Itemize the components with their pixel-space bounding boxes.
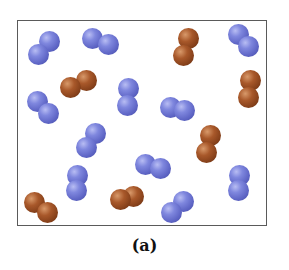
figure-caption: (a) — [0, 236, 289, 255]
brown-atom-sphere — [110, 189, 131, 210]
blue-atom-sphere — [150, 158, 171, 179]
figure: (a) — [0, 0, 289, 270]
blue-atom-sphere — [174, 100, 195, 121]
brown-atom-sphere — [60, 77, 81, 98]
blue-atom-sphere — [238, 36, 259, 57]
brown-atom-sphere — [37, 202, 58, 223]
blue-atom-sphere — [98, 34, 119, 55]
blue-atom-sphere — [228, 180, 249, 201]
blue-atom-sphere — [28, 44, 49, 65]
brown-atom-sphere — [238, 87, 259, 108]
blue-atom-sphere — [38, 103, 59, 124]
brown-atom-sphere — [173, 45, 194, 66]
blue-atom-sphere — [117, 95, 138, 116]
brown-atom-sphere — [196, 142, 217, 163]
blue-atom-sphere — [161, 202, 182, 223]
blue-atom-sphere — [76, 137, 97, 158]
blue-atom-sphere — [66, 180, 87, 201]
